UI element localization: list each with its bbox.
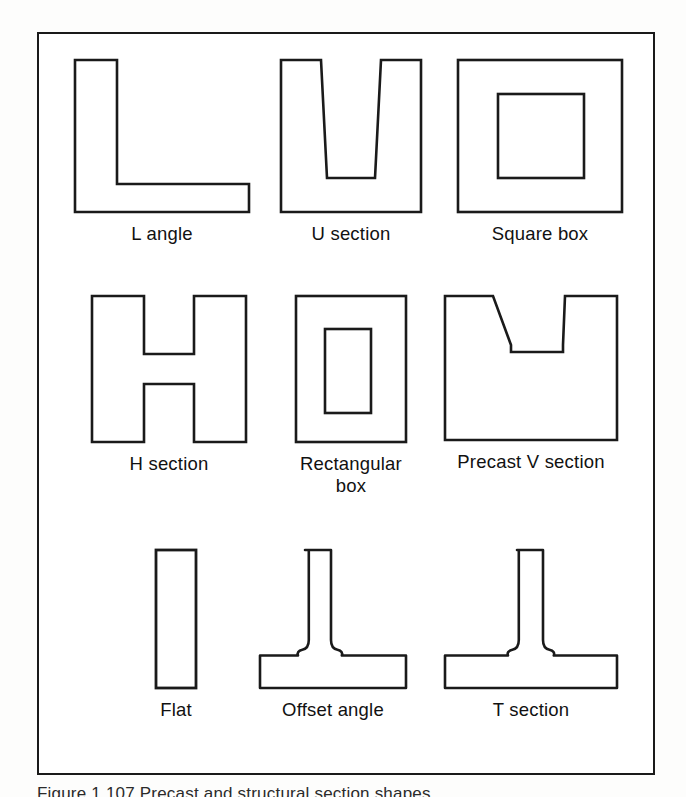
page-background: L angle U section Square box (0, 0, 686, 797)
flat-shape (152, 546, 200, 692)
shape-label-t-section: T section (493, 699, 570, 721)
figure-caption: Figure 1.107 Precast and structural sect… (37, 783, 657, 797)
h-section-shape (88, 292, 250, 446)
shape-cell-flat: Flat (101, 546, 251, 721)
shape-label-rectangular-box: Rectangular box (300, 453, 402, 497)
shape-grid: L angle U section Square box (39, 34, 653, 773)
shape-label-l-angle: L angle (131, 223, 192, 245)
u-section-shape (277, 56, 425, 216)
rectangular-box-shape (292, 292, 410, 446)
l-angle-shape (71, 56, 253, 216)
shape-cell-offset-angle: Offset angle (235, 546, 431, 721)
shape-label-offset-angle: Offset angle (282, 699, 384, 721)
shape-cell-u-section: U section (271, 56, 431, 245)
shape-cell-h-section: H section (79, 292, 259, 475)
shape-label-square-box: Square box (492, 223, 589, 245)
shape-cell-l-angle: L angle (67, 56, 257, 245)
square-box-shape (454, 56, 626, 216)
t-section-shape (431, 546, 631, 692)
precast-v-section-shape (441, 292, 621, 444)
shape-cell-precast-v-section: Precast V section (427, 292, 635, 473)
figure-frame: L angle U section Square box (37, 32, 655, 775)
shape-cell-square-box: Square box (447, 56, 633, 245)
shape-cell-rectangular-box: Rectangular box (267, 292, 435, 497)
shape-label-precast-v-section: Precast V section (457, 451, 604, 473)
shape-cell-t-section: T section (425, 546, 637, 721)
shape-label-u-section: U section (312, 223, 391, 245)
offset-angle-shape (238, 546, 428, 692)
shape-label-h-section: H section (130, 453, 209, 475)
shape-label-flat: Flat (160, 699, 192, 721)
